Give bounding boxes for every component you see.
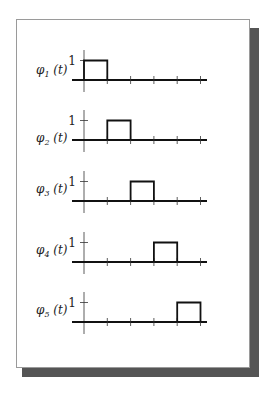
function-label: φ3 (t) <box>36 182 68 198</box>
pulse <box>131 182 154 202</box>
plot-1: 1φ1 (t) <box>36 50 207 92</box>
y-tick-label: 1 <box>68 236 76 250</box>
pulse <box>84 61 107 81</box>
pulse <box>107 121 130 141</box>
y-tick-label: 1 <box>68 114 76 128</box>
plot-2: 1φ2 (t) <box>36 110 207 152</box>
y-tick-label: 1 <box>68 296 76 310</box>
function-label: φ1 (t) <box>36 63 68 79</box>
plot-4: 1φ4 (t) <box>36 232 207 274</box>
function-label: φ5 (t) <box>36 303 68 319</box>
function-label: φ2 (t) <box>36 131 68 147</box>
plot-3: 1φ3 (t) <box>36 171 207 213</box>
pulse <box>177 303 200 323</box>
y-tick-label: 1 <box>68 54 76 68</box>
pulse <box>154 243 177 263</box>
plot-5: 1φ5 (t) <box>36 292 207 334</box>
function-label: φ4 (t) <box>36 243 68 259</box>
y-tick-label: 1 <box>68 175 76 189</box>
pulse-plots: 1φ1 (t)1φ2 (t)1φ3 (t)1φ4 (t)1φ5 (t) <box>0 0 269 394</box>
